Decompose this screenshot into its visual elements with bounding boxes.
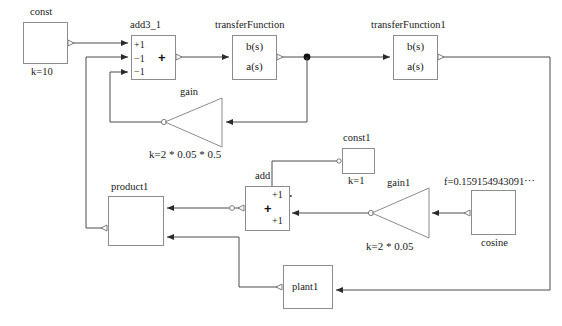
block-const1[interactable] bbox=[342, 148, 375, 174]
label-const1: const1 bbox=[343, 133, 370, 144]
param-const: k=10 bbox=[31, 67, 53, 78]
port-label-add3-in1: +1 bbox=[134, 39, 145, 50]
gain-triangle-shape bbox=[165, 98, 222, 147]
gain1-triangle-shape bbox=[372, 188, 429, 238]
port-plant1-out bbox=[276, 284, 282, 290]
port-label-add3-in2: −1 bbox=[134, 53, 145, 64]
diagram-canvas: const k=10 add3_1 +1 −1 −1 + transferFun… bbox=[0, 0, 562, 326]
label-transfer-function: transferFunction bbox=[215, 20, 284, 31]
port-cosine-out bbox=[464, 210, 470, 216]
wire-plant1-to-product1 bbox=[167, 237, 280, 287]
port-const1-out bbox=[337, 159, 341, 163]
port-add-outdot bbox=[230, 206, 235, 211]
tf1-numerator: b(s) bbox=[393, 40, 438, 52]
port-tf1-out bbox=[438, 54, 444, 60]
port-label-add3-in3: −1 bbox=[134, 66, 145, 77]
port-add-out bbox=[238, 205, 244, 211]
block-cosine[interactable] bbox=[471, 190, 516, 235]
wire-layer bbox=[0, 0, 562, 326]
port-label-add-in2: +1 bbox=[272, 215, 283, 226]
tf-denominator: a(s) bbox=[232, 60, 277, 72]
param-gain1: k=2 * 0.05 bbox=[366, 241, 413, 252]
tf1-denominator: a(s) bbox=[393, 60, 438, 72]
label-product1: product1 bbox=[111, 182, 148, 193]
port-add3-out bbox=[176, 54, 182, 60]
add-plus-symbol: + bbox=[264, 201, 272, 216]
label-plant1: plant1 bbox=[292, 282, 318, 293]
label-gain1: gain1 bbox=[387, 178, 410, 189]
port-tf-out bbox=[277, 54, 283, 60]
port-product1-out bbox=[101, 225, 107, 231]
param-gain: k=2 * 0.05 * 0.5 bbox=[149, 149, 221, 160]
block-product1[interactable] bbox=[108, 196, 164, 246]
label-add: add bbox=[255, 171, 270, 182]
port-const-out bbox=[68, 40, 74, 46]
label-add3-1: add3_1 bbox=[130, 20, 161, 31]
block-const[interactable] bbox=[23, 22, 68, 64]
add3-plus-symbol: + bbox=[158, 50, 166, 65]
label-transfer-function-1: transferFunction1 bbox=[371, 20, 446, 31]
label-const: const bbox=[30, 7, 52, 18]
tf-numerator: b(s) bbox=[232, 40, 277, 52]
label-cosine: cosine bbox=[481, 238, 508, 249]
param-const1: k=1 bbox=[348, 176, 364, 187]
label-gain: gain bbox=[180, 87, 198, 98]
port-label-add-in1: +1 bbox=[272, 189, 283, 200]
param-cosine-frequency: f=0.159154943091⋯ bbox=[444, 177, 535, 188]
